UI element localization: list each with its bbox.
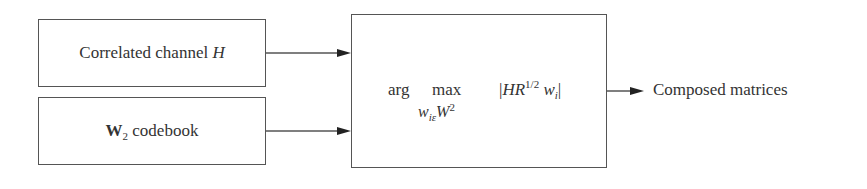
connector-arrows xyxy=(0,0,867,189)
arrowhead-icon xyxy=(630,87,644,95)
arrowhead-icon xyxy=(337,127,351,135)
arrowhead-icon xyxy=(337,49,351,57)
